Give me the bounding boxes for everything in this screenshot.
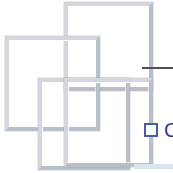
square-outline-bottom-right (64, 78, 153, 167)
diagram-canvas: C (0, 0, 173, 173)
clipped-letter: C (164, 120, 173, 140)
horizontal-divider (142, 67, 173, 69)
bottom-accent-band (134, 164, 173, 169)
checkbox-unchecked[interactable] (144, 123, 158, 137)
